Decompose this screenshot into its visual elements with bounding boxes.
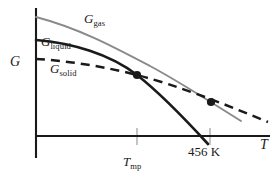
curve-liquid xyxy=(36,40,208,144)
x-axis-label: T xyxy=(260,138,268,152)
curve-label-gas-subscript: gas xyxy=(93,18,105,28)
curve-label-gas: Ggas xyxy=(84,12,105,25)
melting-point-marker xyxy=(133,71,141,79)
y-axis-label: G xyxy=(10,55,20,69)
curve-label-liquid: Gliquid xyxy=(41,35,71,48)
boiling-point-marker xyxy=(207,98,215,106)
curve-label-solid: Gsolid xyxy=(50,62,77,75)
curve-label-solid-subscript: solid xyxy=(59,68,76,78)
tick-label-tmp-subscript: mp xyxy=(130,161,141,171)
tick-label-456k: 456 K xyxy=(188,145,220,158)
gibbs-energy-chart: G T Ggas Gliquid Gsolid Tmp 456 K xyxy=(0,0,278,185)
tick-label-tmp: Tmp xyxy=(123,155,141,168)
curve-label-liquid-subscript: liquid xyxy=(50,41,71,51)
